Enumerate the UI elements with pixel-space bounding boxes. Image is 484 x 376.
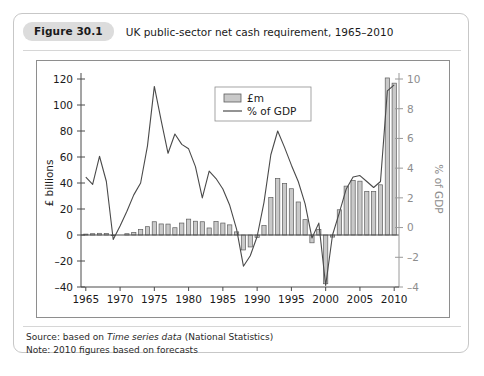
bar-1992 bbox=[269, 198, 273, 235]
bar-1996 bbox=[296, 202, 300, 235]
source-line: Source: based on Time series data (Natio… bbox=[26, 331, 273, 344]
figure-number-badge: Figure 30.1 bbox=[23, 22, 114, 41]
x-tick-label: 1965 bbox=[72, 293, 99, 305]
y2-tick-label: 10 bbox=[407, 73, 420, 85]
bar-1988 bbox=[241, 235, 245, 250]
bar-1975 bbox=[152, 222, 156, 235]
bar-1978 bbox=[173, 228, 177, 235]
bar-1991 bbox=[262, 226, 266, 235]
y-tick-label: 80 bbox=[60, 125, 73, 137]
legend-line-label: % of GDP bbox=[247, 105, 296, 117]
y-tick-label: –20 bbox=[54, 255, 73, 267]
footer-divider bbox=[23, 326, 461, 327]
y-axis-title: £ billions bbox=[43, 160, 55, 207]
bar-2010 bbox=[392, 83, 396, 235]
bar-1979 bbox=[180, 223, 184, 235]
bar-1989 bbox=[248, 235, 252, 247]
figure-title: UK public-sector net cash requirement, 1… bbox=[126, 26, 394, 38]
figure-card: Figure 30.1 UK public-sector net cash re… bbox=[13, 13, 469, 353]
x-tick-label: 1970 bbox=[107, 293, 134, 305]
y2-tick-label: –4 bbox=[407, 281, 419, 293]
source-suffix: (National Statistics) bbox=[182, 332, 273, 342]
x-tick-label: 2010 bbox=[381, 293, 408, 305]
y2-tick-label: –2 bbox=[407, 251, 419, 263]
legend-bar-swatch bbox=[224, 94, 241, 102]
x-tick-label: 1985 bbox=[209, 293, 236, 305]
bar-1995 bbox=[289, 189, 293, 235]
chart-plot-area: –40–20020406080100120£ billions–4–202468… bbox=[36, 60, 450, 318]
bar-2009 bbox=[385, 78, 389, 235]
bar-1985 bbox=[221, 223, 225, 235]
bar-1973 bbox=[139, 230, 143, 235]
x-tick-label: 1980 bbox=[175, 293, 202, 305]
x-tick-label: 2000 bbox=[312, 293, 339, 305]
y2-tick-label: 6 bbox=[407, 132, 414, 144]
y2-tick-label: 8 bbox=[407, 103, 414, 115]
bar-1976 bbox=[159, 224, 163, 235]
bar-1983 bbox=[207, 228, 211, 235]
figure-header: Figure 30.1 UK public-sector net cash re… bbox=[23, 22, 393, 41]
bar-2006 bbox=[365, 191, 369, 235]
bar-1993 bbox=[276, 179, 280, 235]
y-tick-label: 0 bbox=[66, 229, 73, 241]
y-tick-label: 120 bbox=[53, 73, 73, 85]
y-tick-label: 20 bbox=[60, 203, 73, 215]
source-prefix: Source: based on bbox=[26, 332, 107, 342]
bar-2004 bbox=[351, 180, 355, 235]
y-tick-label: 40 bbox=[60, 177, 73, 189]
source-italic-title: Time series data bbox=[107, 332, 182, 342]
bar-2005 bbox=[358, 181, 362, 235]
x-tick-label: 2005 bbox=[347, 293, 374, 305]
bar-1977 bbox=[166, 224, 170, 235]
y-tick-label: –40 bbox=[54, 281, 73, 293]
figure-footnotes: Source: based on Time series data (Natio… bbox=[26, 331, 273, 356]
bar-1981 bbox=[193, 221, 197, 235]
bar-1982 bbox=[200, 222, 204, 235]
x-tick-label: 1975 bbox=[141, 293, 168, 305]
y2-axis-title: % of GDP bbox=[433, 164, 445, 213]
bar-1980 bbox=[186, 219, 190, 235]
header-divider bbox=[23, 50, 461, 51]
bar-1984 bbox=[214, 221, 218, 235]
x-tick-label: 1995 bbox=[278, 293, 305, 305]
y2-tick-label: 4 bbox=[407, 162, 414, 174]
y2-tick-label: 0 bbox=[407, 221, 414, 233]
legend-bar-label: £m bbox=[247, 92, 264, 104]
y-tick-label: 100 bbox=[53, 99, 73, 111]
bar-2007 bbox=[372, 192, 376, 235]
x-tick-label: 1990 bbox=[244, 293, 271, 305]
cash-requirement-chart: –40–20020406080100120£ billions–4–202468… bbox=[37, 61, 449, 317]
bar-1974 bbox=[145, 227, 149, 235]
note-line: Note: 2010 figures based on forecasts bbox=[26, 344, 273, 357]
bar-1986 bbox=[228, 225, 232, 235]
y-tick-label: 60 bbox=[60, 151, 73, 163]
bar-1997 bbox=[303, 220, 307, 235]
bar-1994 bbox=[282, 184, 286, 235]
bar-2008 bbox=[378, 185, 382, 235]
y2-tick-label: 2 bbox=[407, 192, 414, 204]
